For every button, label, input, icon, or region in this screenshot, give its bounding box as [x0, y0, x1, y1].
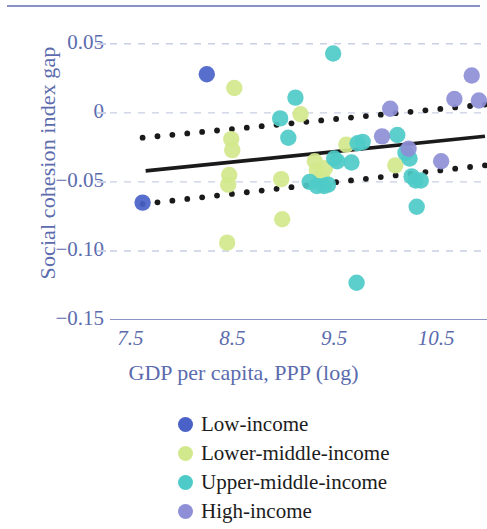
plot-area: [110, 30, 487, 320]
data-point: [400, 141, 416, 157]
confidence-band-dot: [140, 135, 146, 141]
x-axis-tick-label: 8.5: [219, 326, 245, 351]
confidence-band-dot: [214, 128, 220, 134]
data-point: [374, 128, 390, 144]
confidence-band-dot: [184, 196, 190, 202]
confidence-band-dot: [289, 184, 295, 190]
y-axis-tick-mark: [97, 112, 106, 114]
confidence-band-dot: [467, 164, 473, 170]
x-axis-tick-label: 10.5: [418, 326, 455, 351]
data-point: [464, 67, 480, 83]
confidence-band-dot: [452, 166, 458, 172]
legend-item[interactable]: Upper-middle-income: [178, 468, 487, 497]
confidence-band-dot: [482, 162, 487, 168]
data-point: [224, 142, 240, 158]
confidence-band-dot: [378, 174, 384, 180]
confidence-band-dot: [244, 189, 250, 195]
confidence-band-dot: [244, 125, 250, 131]
chart-legend: Low-incomeLower-middle-incomeUpper-middl…: [178, 410, 487, 526]
legend-item-label: Low-income: [201, 412, 308, 437]
y-axis-tick-label: 0.05: [0, 30, 104, 55]
confidence-band-dot: [259, 123, 265, 129]
legend-item[interactable]: Lower-middle-income: [178, 439, 487, 468]
legend-swatch-dot-icon: [178, 475, 193, 490]
data-point: [343, 154, 359, 170]
data-point: [382, 101, 398, 117]
y-axis-tick-label: −0.10: [0, 237, 104, 262]
legend-item[interactable]: Low-income: [178, 410, 487, 439]
data-point: [325, 45, 341, 61]
y-axis-tick-label: 0: [0, 99, 104, 124]
confidence-band-dot: [437, 106, 443, 112]
confidence-band-dot: [348, 115, 354, 121]
confidence-band-dot: [408, 109, 414, 115]
data-point: [329, 153, 345, 169]
confidence-band-dot: [363, 176, 369, 182]
legend-item[interactable]: High-income: [178, 497, 487, 526]
data-point: [220, 176, 236, 192]
data-point: [471, 92, 487, 108]
y-axis-tick-mark: [97, 250, 106, 252]
data-point: [446, 91, 462, 107]
data-point: [287, 89, 303, 105]
legend-item-label: Upper-middle-income: [201, 470, 387, 495]
data-point: [273, 171, 289, 187]
data-point: [354, 134, 370, 150]
legend-swatch-dot-icon: [178, 417, 193, 432]
y-axis-tick-label: −0.15: [0, 306, 104, 331]
confidence-band-dot: [363, 113, 369, 119]
confidence-band-dot: [348, 178, 354, 184]
confidence-band-dot: [155, 133, 161, 139]
confidence-band-dot: [199, 129, 205, 135]
legend-item-label: Lower-middle-income: [201, 441, 390, 466]
confidence-band-dot: [169, 198, 175, 204]
x-axis-tick-label: 7.5: [117, 326, 143, 351]
data-point: [272, 110, 288, 126]
data-point: [348, 275, 364, 291]
confidence-band-dot: [333, 116, 339, 122]
scatter-plot-svg: [110, 30, 487, 320]
series-low-income: [134, 66, 215, 211]
y-axis-tick-label: −0.05: [0, 168, 104, 193]
data-point: [219, 234, 235, 250]
confidence-band-dot: [318, 118, 324, 124]
data-point: [134, 194, 150, 210]
confidence-band-dot: [169, 132, 175, 138]
upper-confidence-band: [140, 102, 487, 141]
data-point: [389, 127, 405, 143]
data-point: [292, 106, 308, 122]
legend-swatch-dot-icon: [178, 504, 193, 519]
data-point: [226, 80, 242, 96]
chart-figure: Social cohesion index gap 0.050−0.05−0.1…: [0, 0, 487, 529]
legend-swatch-dot-icon: [178, 446, 193, 461]
x-axis-label: GDP per capita, PPP (log): [0, 360, 487, 386]
data-point: [199, 66, 215, 82]
top-rule: [7, 5, 480, 7]
y-axis-tick-mark: [97, 181, 106, 183]
data-point: [320, 176, 336, 192]
y-axis-tick-mark: [97, 43, 106, 45]
confidence-band-dot: [378, 112, 384, 118]
data-point: [413, 172, 429, 188]
confidence-band-dot: [155, 199, 161, 205]
legend-item-label: High-income: [201, 499, 312, 524]
series-lower-middle-income: [219, 80, 404, 251]
series-upper-middle-income: [272, 45, 429, 291]
confidence-band-dot: [214, 193, 220, 199]
confidence-band-dot: [423, 107, 429, 113]
data-point: [274, 211, 290, 227]
confidence-band-dot: [199, 194, 205, 200]
data-point: [280, 130, 296, 146]
data-point: [433, 153, 449, 169]
confidence-band-dot: [289, 120, 295, 126]
series-high-income: [374, 67, 487, 169]
confidence-band-dot: [184, 130, 190, 136]
x-axis-tick-label: 9.5: [321, 326, 347, 351]
confidence-band-dot: [259, 188, 265, 194]
data-point: [408, 199, 424, 215]
